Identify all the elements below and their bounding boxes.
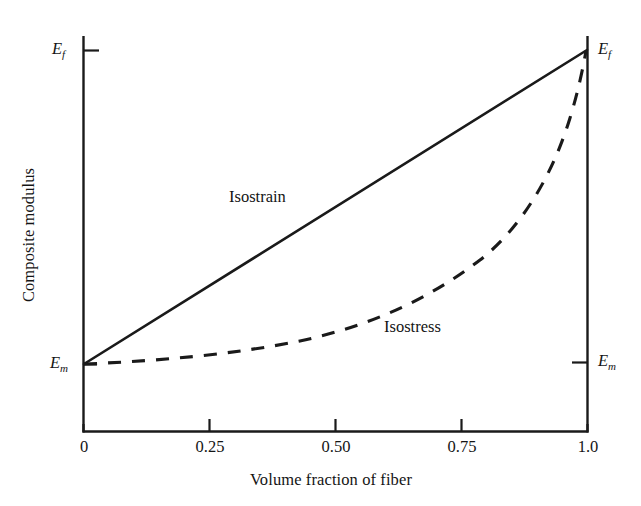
ef-subscript: f <box>62 48 65 60</box>
ef-subscript-right: f <box>608 48 611 60</box>
x-axis-title: Volume fraction of fiber <box>206 470 456 490</box>
ef-symbol-right: E <box>598 39 608 58</box>
em-symbol-right: E <box>598 351 608 370</box>
x-tick-label-075: 0.75 <box>432 437 492 457</box>
x-tick-label-10: 1.0 <box>563 437 613 457</box>
em-symbol: E <box>50 353 60 372</box>
isostress-label: Isostress <box>384 317 441 337</box>
y-axis-title: Composite modulus <box>19 140 39 330</box>
ef-symbol: E <box>52 39 62 58</box>
x-tick-label-0: 0 <box>63 437 105 457</box>
isostrain-label: Isostrain <box>229 187 286 207</box>
chart-plot-area <box>0 0 641 506</box>
isostrain-curve <box>84 50 587 364</box>
y-axis-label-em-right: Em <box>598 351 616 372</box>
em-subscript: m <box>60 362 68 374</box>
x-tick-label-050: 0.50 <box>306 437 366 457</box>
chart-figure: Ef Em Ef Em 0 0.25 0.50 0.75 1.0 Isostra… <box>0 0 641 506</box>
y-axis-label-ef-right: Ef <box>598 39 611 60</box>
x-tick-label-025: 0.25 <box>180 437 240 457</box>
y-axis-label-ef-left: Ef <box>52 39 65 60</box>
y-axis-label-em-left: Em <box>50 353 68 374</box>
em-subscript-right: m <box>608 360 616 372</box>
